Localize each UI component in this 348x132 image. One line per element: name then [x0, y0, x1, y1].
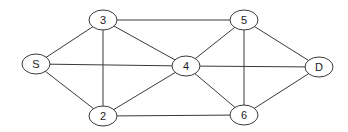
node-4: 4 — [172, 56, 200, 76]
node-s: S — [22, 54, 50, 74]
edge-3-4 — [103, 20, 186, 66]
node-3: 3 — [89, 10, 117, 30]
node-label: 4 — [183, 60, 189, 72]
node-2: 2 — [89, 106, 117, 126]
node-label: 2 — [100, 110, 106, 122]
node-5: 5 — [230, 10, 258, 30]
edge-s-4 — [36, 64, 186, 66]
node-label: 5 — [241, 14, 247, 26]
node-label: 3 — [100, 14, 106, 26]
edge-4-d — [186, 66, 319, 67]
edge-2-4 — [103, 66, 186, 116]
node-label: S — [32, 58, 39, 70]
network-graph: S 3 2 4 5 6 D — [0, 0, 348, 132]
node-label: 6 — [241, 109, 247, 121]
edge-2-6 — [103, 115, 244, 116]
node-label: D — [315, 61, 323, 73]
graph-nodes: S 3 2 4 5 6 D — [22, 10, 333, 126]
edge-6-d — [244, 67, 319, 115]
edge-s-2 — [36, 64, 103, 116]
node-d: D — [305, 57, 333, 77]
edge-5-d — [244, 20, 319, 67]
node-6: 6 — [230, 105, 258, 125]
